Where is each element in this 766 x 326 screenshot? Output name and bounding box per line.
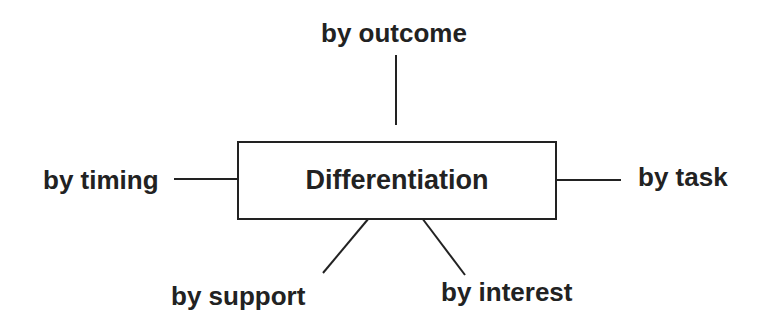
branch-outcome-label: by outcome [321,20,467,46]
branch-task-label: by task [638,164,728,190]
center-node: Differentiation [237,141,557,220]
branch-timing-label: by timing [43,167,159,193]
connector-interest [422,218,465,275]
branch-support-label: by support [171,283,305,309]
connector-support [323,218,369,273]
branch-interest-label: by interest [441,279,573,305]
diagram-canvas: Differentiation by outcome by timing by … [0,0,766,326]
center-node-label: Differentiation [305,167,488,194]
